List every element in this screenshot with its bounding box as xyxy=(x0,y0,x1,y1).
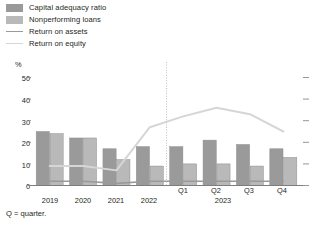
y-tick-label-30: 30 xyxy=(8,118,30,127)
bar-2021-npl xyxy=(117,160,130,186)
y-axis-unit-label: % xyxy=(15,60,22,69)
legend-label: Return on assets xyxy=(29,27,88,36)
bar-q2-car xyxy=(203,140,216,185)
line-return-on-equity xyxy=(50,108,284,171)
legend-label: Return on equity xyxy=(29,39,86,48)
x-tick-label-q1: Q1 xyxy=(168,186,198,195)
bar-2020-npl xyxy=(83,138,96,186)
legend-item-capital-adequacy-ratio: Capital adequacy ratio xyxy=(6,2,106,13)
legend-swatch-bar-icon xyxy=(6,16,23,24)
chart-footnote: Q = quarter. xyxy=(6,209,46,218)
bar-2019-car xyxy=(36,132,49,186)
bar-q3-npl xyxy=(250,166,263,185)
y-tick-label-10: 10 xyxy=(8,161,30,170)
y-tick-label-20: 20 xyxy=(8,139,30,148)
x-tick-label-q2: Q2 xyxy=(201,186,231,195)
legend-label: Nonperforming loans xyxy=(29,15,101,24)
legend-item-return-on-equity: Return on equity xyxy=(6,38,106,49)
y-tick-label-50: 50 xyxy=(8,74,30,83)
bar-q2-npl xyxy=(217,164,230,186)
legend-label: Capital adequacy ratio xyxy=(29,3,106,12)
bar-2022-npl xyxy=(150,166,163,185)
legend-swatch-line-icon xyxy=(6,40,23,48)
x-tick-label-2022: 2022 xyxy=(133,196,165,205)
x-tick-label-2020: 2020 xyxy=(67,196,99,205)
x-tick-label-q4: Q4 xyxy=(267,186,297,195)
bar-q3-car xyxy=(236,144,249,185)
x-tick-label-q3: Q3 xyxy=(234,186,264,195)
line-return-on-assets xyxy=(50,181,284,183)
x-group-label-2023: 2023 xyxy=(203,196,243,205)
x-tick-label-2021: 2021 xyxy=(100,196,132,205)
y-tick-label-0: 0 xyxy=(8,182,30,191)
legend-swatch-line-icon xyxy=(6,28,23,36)
bar-q4-car xyxy=(270,149,283,186)
legend-swatch-bar-icon xyxy=(6,4,23,12)
bar-2019-npl xyxy=(50,134,63,186)
legend-item-return-on-assets: Return on assets xyxy=(6,26,106,37)
bar-q4-npl xyxy=(284,157,297,185)
x-tick-label-2019: 2019 xyxy=(34,196,66,205)
bar-q1-npl xyxy=(183,164,196,186)
bar-2020-car xyxy=(70,138,83,186)
chart-legend: Capital adequacy ratio Nonperforming loa… xyxy=(6,2,106,50)
bar-2022-car xyxy=(136,147,149,186)
bar-q1-car xyxy=(170,147,183,186)
legend-item-nonperforming-loans: Nonperforming loans xyxy=(6,14,106,25)
y-tick-label-40: 40 xyxy=(8,96,30,105)
bar-2021-car xyxy=(103,149,116,186)
